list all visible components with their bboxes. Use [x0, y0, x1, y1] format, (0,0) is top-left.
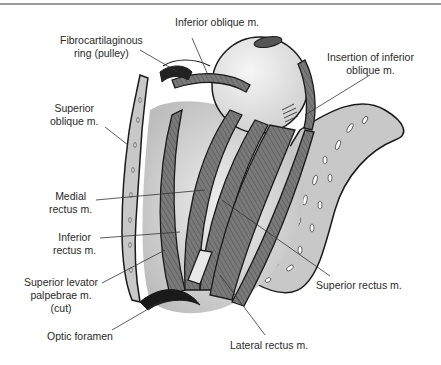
label-inferior-rectus: Inferior rectus m.: [53, 231, 96, 257]
label-line: palpebrae m.: [24, 289, 98, 302]
label-superior-rectus: Superior rectus m.: [316, 279, 402, 292]
label-line: Inferior: [53, 231, 96, 244]
label-superior-levator: Superior levator palpebrae m. (cut): [24, 276, 98, 315]
label-text: Optic foramen: [47, 330, 113, 342]
label-line: (cut): [24, 302, 98, 315]
label-text: Lateral rectus m.: [230, 339, 308, 351]
label-pulley: Fibrocartilaginous ring (pulley): [60, 34, 143, 60]
label-line: ring (pulley): [60, 47, 143, 60]
label-superior-oblique: Superior oblique m.: [50, 102, 98, 128]
label-medial-rectus: Medial rectus m.: [49, 190, 92, 216]
label-line: Medial: [49, 190, 92, 203]
label-insertion-inferior-oblique: Insertion of inferior oblique m.: [327, 51, 414, 77]
label-inferior-oblique: Inferior oblique m.: [175, 16, 259, 29]
label-line: Superior: [50, 102, 98, 115]
label-line: oblique m.: [50, 115, 98, 128]
label-line: Insertion of inferior: [327, 51, 414, 64]
label-line: Fibrocartilaginous: [60, 34, 143, 47]
label-text: Superior rectus m.: [316, 279, 402, 291]
label-lateral-rectus: Lateral rectus m.: [230, 339, 308, 352]
label-line: oblique m.: [327, 64, 414, 77]
label-line: Superior levator: [24, 276, 98, 289]
label-line: rectus m.: [53, 244, 96, 257]
label-text: Inferior oblique m.: [175, 16, 259, 28]
label-line: rectus m.: [49, 203, 92, 216]
label-optic-foramen: Optic foramen: [47, 330, 113, 343]
